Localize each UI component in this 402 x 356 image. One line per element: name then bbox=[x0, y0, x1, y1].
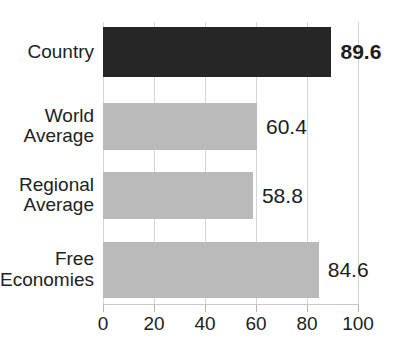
category-label: Free Economies bbox=[0, 249, 94, 290]
category-label: Regional Average bbox=[19, 175, 94, 216]
x-axis-tick-mark bbox=[205, 305, 206, 312]
x-axis-tick-label: 40 bbox=[194, 313, 215, 335]
bar-row: 84.6 bbox=[103, 242, 358, 298]
bar-value-label: 89.6 bbox=[340, 41, 381, 62]
bar-row: 60.4 bbox=[103, 103, 358, 150]
bar bbox=[103, 242, 319, 298]
x-axis-tick-mark bbox=[154, 305, 155, 312]
category-label: Country bbox=[27, 42, 94, 63]
bar-value-label: 84.6 bbox=[328, 259, 369, 280]
horizontal-bar-chart: 89.660.458.884.6 020406080100 CountryWor… bbox=[0, 0, 402, 356]
bar-value-label: 60.4 bbox=[266, 116, 307, 137]
x-axis-tick-label: 80 bbox=[296, 313, 317, 335]
x-axis-tick-label: 0 bbox=[98, 313, 109, 335]
x-axis-tick-mark bbox=[307, 305, 308, 312]
bar bbox=[103, 27, 331, 77]
x-axis-tick-mark bbox=[256, 305, 257, 312]
chart-title bbox=[0, 0, 402, 3]
plot-area: 89.660.458.884.6 bbox=[103, 22, 358, 305]
x-axis-tick-mark bbox=[103, 305, 104, 312]
bar-row: 89.6 bbox=[103, 27, 358, 77]
category-label: World Average bbox=[24, 106, 94, 147]
bar bbox=[103, 172, 253, 219]
x-axis-line bbox=[103, 304, 359, 305]
bar-row: 58.8 bbox=[103, 172, 358, 219]
x-axis-tick-label: 20 bbox=[143, 313, 164, 335]
x-axis-tick-label: 100 bbox=[342, 313, 374, 335]
bar-value-label: 58.8 bbox=[262, 185, 303, 206]
bar bbox=[103, 103, 257, 150]
x-axis-tick-mark bbox=[358, 305, 359, 312]
x-axis-tick-label: 60 bbox=[245, 313, 266, 335]
